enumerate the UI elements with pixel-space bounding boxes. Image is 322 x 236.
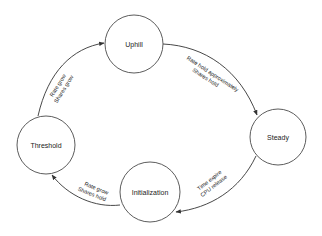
transition-threshold-to-uphill: Rate grow Shares grow — [38, 43, 104, 116]
state-label: Steady — [267, 134, 289, 142]
state-initialization: Initialization — [120, 162, 180, 222]
state-label: Uphill — [125, 41, 143, 49]
state-diagram: Rate grow Shares grow Rate hold approxim… — [0, 0, 322, 236]
state-steady: Steady — [250, 109, 306, 165]
state-threshold: Threshold — [17, 116, 75, 174]
state-label: Threshold — [30, 142, 61, 149]
state-uphill: Uphill — [105, 15, 163, 73]
transition-uphill-to-steady: Rate hold approximately Shares hold — [163, 44, 257, 115]
state-label: Initialization — [132, 189, 169, 196]
transition-initialization-to-threshold: Rate grow Shares hold — [52, 175, 120, 205]
transition-steady-to-initialization: Time expire CPU release — [176, 156, 256, 212]
